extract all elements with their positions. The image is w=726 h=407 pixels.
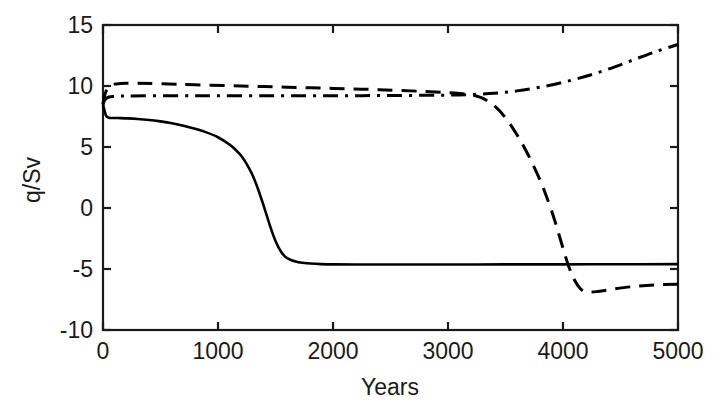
y-tick-label: 0 (80, 195, 93, 221)
x-axis-title: Years (361, 374, 419, 400)
y-tick-label: 10 (67, 73, 93, 99)
y-axis-title: q/Sv (19, 156, 45, 203)
x-tick-label: 3000 (422, 338, 473, 364)
x-tick-label: 4000 (537, 338, 588, 364)
line-chart: 010002000300040005000 -10-5051015 Years … (0, 0, 726, 407)
chart-figure: 010002000300040005000 -10-5051015 Years … (0, 0, 726, 407)
y-tick-label: 15 (67, 12, 93, 38)
y-tick-label: 5 (80, 134, 93, 160)
x-tick-label: 1000 (192, 338, 243, 364)
x-tick-label: 2000 (307, 338, 358, 364)
y-axis-tick-labels: -10-5051015 (60, 12, 93, 343)
x-axis-tick-labels: 010002000300040005000 (97, 338, 704, 364)
x-tick-label: 0 (97, 338, 110, 364)
x-tick-label: 5000 (652, 338, 703, 364)
plot-frame (103, 25, 678, 330)
y-tick-label: -10 (60, 317, 93, 343)
y-tick-label: -5 (73, 256, 93, 282)
